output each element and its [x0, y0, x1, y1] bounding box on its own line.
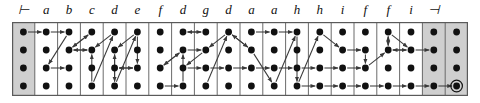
column-label-11: a [263, 0, 286, 22]
lattice-node-14-3 [339, 83, 346, 90]
lattice-node-1-0 [43, 29, 50, 36]
lattice-node-18-2 [430, 65, 437, 72]
lattice-node-1-3 [43, 83, 50, 90]
lattice-node-11-0 [271, 29, 278, 36]
column-label-3: c [80, 0, 103, 22]
lattice-node-8-2 [202, 65, 209, 72]
lattice-node-1-2 [43, 65, 50, 72]
column-label-13: h [308, 0, 331, 22]
lattice-node-13-1 [316, 47, 323, 54]
lattice-node-0-0 [20, 29, 27, 36]
lattice-node-9-3 [225, 83, 232, 90]
lattice-node-11-2 [271, 65, 278, 72]
column-label-15: f [354, 0, 377, 22]
lattice-node-5-0 [134, 29, 141, 36]
lattice-node-3-0 [88, 29, 95, 36]
column-label-5: e [126, 0, 149, 22]
lattice-node-14-0 [339, 29, 346, 36]
lattice-node-8-0 [202, 29, 209, 36]
lattice-node-13-3 [316, 83, 323, 90]
lattice-node-9-0 [225, 29, 232, 36]
lattice-node-16-0 [385, 29, 392, 36]
lattice-node-10-2 [248, 65, 255, 72]
column-label-10: a [240, 0, 263, 22]
lattice-node-15-3 [362, 83, 369, 90]
lattice-node-14-2 [339, 65, 346, 72]
column-label-6: f [149, 0, 172, 22]
lattice-node-7-1 [180, 47, 187, 54]
column-label-18: ⊣ [422, 0, 445, 22]
column-label-1: a [35, 0, 58, 22]
lattice-node-11-1 [271, 47, 278, 54]
lattice-node-4-2 [111, 65, 118, 72]
lattice-node-5-3 [134, 83, 141, 90]
column-label-9: d [217, 0, 240, 22]
lattice-node-12-1 [294, 47, 301, 54]
lattice-node-8-1 [202, 47, 209, 54]
column-label-19 [445, 0, 468, 22]
lattice-node-19-0 [453, 29, 460, 36]
lattice-node-11-3 [271, 83, 278, 90]
lattice-svg [12, 22, 468, 96]
lattice-node-1-1 [43, 47, 50, 54]
lattice-node-4-1 [111, 47, 118, 54]
lattice-node-4-0 [111, 29, 118, 36]
column-label-17: i [400, 0, 423, 22]
lattice-node-6-2 [157, 65, 164, 72]
lattice-node-5-2 [134, 65, 141, 72]
lattice-node-17-3 [408, 83, 415, 90]
lattice-node-17-0 [408, 29, 415, 36]
lattice-node-17-1 [408, 47, 415, 54]
column-label-7: d [172, 0, 195, 22]
column-label-4: d [103, 0, 126, 22]
lattice-node-8-3 [202, 83, 209, 90]
column-label-16: f [377, 0, 400, 22]
lattice-node-3-3 [88, 83, 95, 90]
lattice-node-10-0 [248, 29, 255, 36]
lattice-grid [12, 22, 468, 96]
accepting-node [453, 83, 460, 90]
lattice-node-17-2 [408, 65, 415, 72]
lattice-node-2-0 [66, 29, 73, 36]
lattice-node-5-1 [134, 47, 141, 54]
column-label-0: ⊢ [12, 0, 35, 22]
lattice-node-6-3 [157, 83, 164, 90]
lattice-node-6-0 [157, 29, 164, 36]
lattice-node-12-3 [294, 83, 301, 90]
lattice-node-13-2 [316, 65, 323, 72]
lattice-node-19-1 [453, 47, 460, 54]
parse-lattice-figure: ⊢abcdefdgdaahhiffi⊣ [0, 0, 480, 103]
lattice-node-16-3 [385, 83, 392, 90]
lattice-node-4-3 [111, 83, 118, 90]
lattice-node-13-0 [316, 29, 323, 36]
lattice-node-12-2 [294, 65, 301, 72]
lattice-node-0-3 [20, 83, 27, 90]
lattice-node-10-3 [248, 83, 255, 90]
lattice-node-15-2 [362, 65, 369, 72]
lattice-node-18-1 [430, 47, 437, 54]
lattice-node-15-1 [362, 47, 369, 54]
lattice-node-18-0 [430, 29, 437, 36]
lattice-node-7-0 [180, 29, 187, 36]
lattice-node-12-0 [294, 29, 301, 36]
lattice-node-14-1 [339, 47, 346, 54]
column-label-2: b [58, 0, 81, 22]
lattice-node-6-1 [157, 47, 164, 54]
lattice-node-3-2 [88, 65, 95, 72]
lattice-node-3-1 [88, 47, 95, 54]
lattice-node-9-1 [225, 47, 232, 54]
lattice-node-9-2 [225, 65, 232, 72]
lattice-node-0-1 [20, 47, 27, 54]
column-label-14: i [331, 0, 354, 22]
column-header-row: ⊢abcdefdgdaahhiffi⊣ [0, 0, 480, 22]
column-label-8: g [194, 0, 217, 22]
lattice-node-2-3 [66, 83, 73, 90]
lattice-node-16-1 [385, 47, 392, 54]
lattice-node-10-1 [248, 47, 255, 54]
lattice-node-15-0 [362, 29, 369, 36]
lattice-node-2-2 [66, 65, 73, 72]
lattice-node-2-1 [66, 47, 73, 54]
lattice-node-7-2 [180, 65, 187, 72]
lattice-node-19-2 [453, 65, 460, 72]
column-label-12: h [286, 0, 309, 22]
